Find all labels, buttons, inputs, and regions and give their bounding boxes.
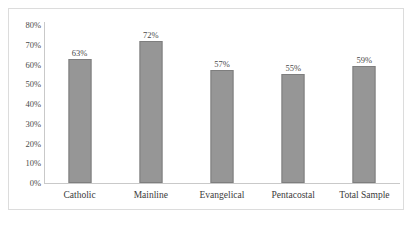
y-tick-label: 10% [5, 159, 41, 168]
bar-value-label: 63% [72, 48, 88, 58]
bar-chart: 80% 70% 60% 50% 40% 30% 20% 10% 0% 63% C… [0, 0, 412, 228]
x-tick-label: Evangelical [200, 189, 245, 201]
x-tick-label: Catholic [63, 189, 95, 201]
y-tick-label: 80% [5, 21, 41, 30]
bar[interactable] [68, 59, 91, 183]
y-axis: 80% 70% 60% 50% 40% 30% 20% 10% 0% [0, 0, 41, 228]
bar-value-label: 55% [285, 63, 301, 73]
bar[interactable] [353, 66, 376, 183]
y-tick-label: 0% [5, 179, 41, 188]
bar[interactable] [210, 70, 233, 183]
y-tick-label: 20% [5, 140, 41, 149]
x-tick-label: Pentacostal [272, 189, 315, 201]
bar-value-label: 57% [214, 59, 230, 69]
y-tick-label: 40% [5, 100, 41, 109]
y-tick-label: 70% [5, 41, 41, 50]
bar[interactable] [282, 74, 305, 183]
bar-group-4: 59% Total Sample [329, 0, 400, 228]
bar-value-label: 72% [143, 30, 159, 40]
bar[interactable] [139, 41, 162, 183]
bar-group-0: 63% Catholic [44, 0, 115, 228]
bars-layer: 63% Catholic 72% Mainline 57% Evangelica… [44, 0, 400, 228]
bar-group-2: 57% Evangelical [186, 0, 257, 228]
y-tick-label: 30% [5, 120, 41, 129]
bar-group-3: 55% Pentacostal [258, 0, 329, 228]
x-tick-label: Mainline [134, 189, 168, 201]
y-tick-label: 60% [5, 61, 41, 70]
y-tick-label: 50% [5, 80, 41, 89]
bar-group-1: 72% Mainline [115, 0, 186, 228]
x-tick-label: Total Sample [339, 189, 389, 201]
bar-value-label: 59% [357, 55, 373, 65]
